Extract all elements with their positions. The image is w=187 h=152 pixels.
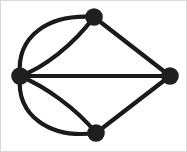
edge-layer — [20, 17, 170, 134]
graph-node-left — [11, 67, 29, 85]
graph-figure — [0, 0, 187, 152]
graph-edge-bottom-right-straight — [96, 76, 170, 133]
graph-canvas — [0, 0, 187, 152]
graph-node-top — [85, 8, 103, 26]
graph-edge-left-top-inner — [20, 17, 94, 76]
graph-edge-top-right-straight — [94, 17, 170, 76]
graph-edge-left-top-outer — [20, 17, 94, 76]
graph-node-right — [161, 67, 179, 85]
graph-edge-left-bottom-inner — [20, 76, 96, 133]
graph-node-bottom — [87, 124, 105, 142]
graph-edge-left-bottom-outer — [20, 76, 96, 134]
